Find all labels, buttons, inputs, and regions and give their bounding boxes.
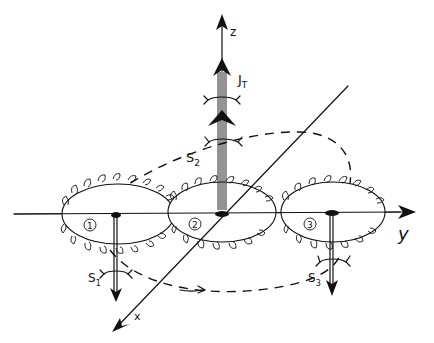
gear-2-label: 2: [192, 220, 198, 230]
s1-label: S1: [88, 271, 101, 288]
jt-label: JT: [237, 72, 248, 90]
x-axis-label: x: [134, 310, 141, 323]
gear-diagram: y 1: [0, 0, 434, 343]
z-axis: z: [216, 14, 236, 60]
gear-1-label: 1: [87, 221, 93, 231]
s2-label: S2: [186, 150, 200, 168]
gear-3-label: 3: [307, 220, 313, 230]
s3-label: S3: [308, 271, 321, 288]
y-axis-label: y: [397, 223, 409, 244]
path-direction-arrow: [180, 286, 205, 293]
z-axis-label: z: [230, 25, 236, 39]
